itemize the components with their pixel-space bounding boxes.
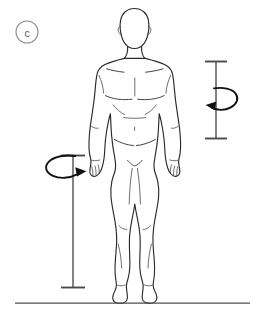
neck-left-line [124,47,127,59]
head-outline [120,9,149,49]
right-rotation-arrow [206,88,238,110]
body-head-group [118,9,151,59]
panel-label-c: c [16,21,38,43]
figure-illustration: c [0,0,260,316]
left-rotation-arrow-curve [46,156,76,178]
neck-right-line [142,47,145,59]
left-rotation-arrow [46,156,86,178]
right-vertical-dimension-line [205,62,227,139]
right-rotation-arrowhead [206,101,217,110]
anatomical-figure-panel: c [0,0,260,316]
left-rotation-arrowhead [75,167,86,176]
panel-label-text: c [24,27,29,39]
